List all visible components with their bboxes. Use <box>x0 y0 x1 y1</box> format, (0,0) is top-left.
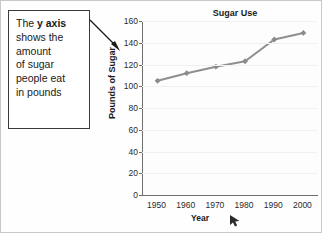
grid-line <box>142 108 317 109</box>
callout-line-3: amount <box>16 45 89 59</box>
chart-container: Sugar Use Pounds of Sugar 16014012010080… <box>95 5 321 231</box>
screenshot-root: The y axis shows the amount of sugar peo… <box>0 0 322 233</box>
grid-line <box>142 86 317 87</box>
y-tick-label: 60 <box>104 125 138 135</box>
callout-line-1: The y axis <box>16 17 89 31</box>
grid-line <box>142 21 317 22</box>
callout-line-4: of sugar <box>16 58 89 72</box>
y-tick-label: 20 <box>104 168 138 178</box>
mouse-pointer-arrow-icon <box>229 214 243 228</box>
chart-title: Sugar Use <box>155 8 315 18</box>
data-point-marker <box>301 30 307 36</box>
y-tick-label: 100 <box>104 81 138 91</box>
x-axis-title: Year <box>170 213 230 223</box>
callout-line-6: in pounds <box>16 86 89 100</box>
callout-line-5: people eat <box>16 72 89 86</box>
y-tick-label: 120 <box>104 60 138 70</box>
y-tick-label: 40 <box>104 147 138 157</box>
callout-line-2: shows the <box>16 31 89 45</box>
y-tick-label: 0 <box>104 190 138 200</box>
grid-line <box>142 152 317 153</box>
y-tick-mark <box>139 195 142 196</box>
callout-box: The y axis shows the amount of sugar peo… <box>8 10 90 129</box>
y-tick-label: 80 <box>104 103 138 113</box>
grid-line <box>142 65 317 66</box>
data-point-marker <box>155 78 161 84</box>
grid-line <box>142 173 317 174</box>
series-line <box>158 33 304 81</box>
grid-line <box>142 43 317 44</box>
y-tick-label: 160 <box>104 16 138 26</box>
data-point-marker <box>184 70 190 76</box>
grid-line <box>142 130 317 131</box>
callout-line-1-pre: The <box>16 17 37 29</box>
callout-line-1-bold: y axis <box>37 17 66 29</box>
x-tick-label: 2000 <box>285 200 319 210</box>
y-tick-label: 140 <box>104 38 138 48</box>
